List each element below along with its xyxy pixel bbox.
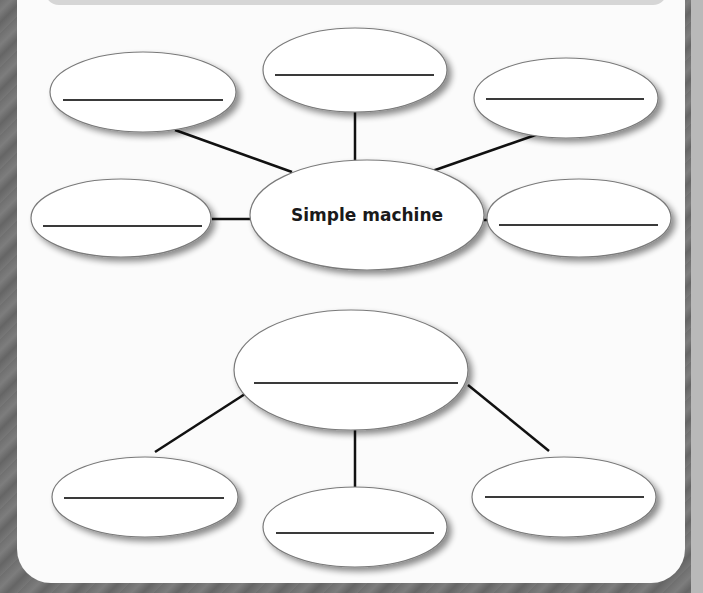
- connector-bottom-left: [155, 394, 245, 452]
- bubble-center-simple-machine: Simple machine: [250, 160, 484, 270]
- center-label: Simple machine: [291, 205, 443, 225]
- bubble-middle-left[interactable]: [31, 179, 211, 257]
- bubble-bottom-right[interactable]: [472, 457, 656, 537]
- concept-web-diagram: Simple machine: [0, 0, 703, 593]
- bubble-top-right[interactable]: [474, 58, 658, 138]
- bubble-top-left[interactable]: [50, 52, 236, 132]
- bubble-middle-right[interactable]: [487, 179, 671, 257]
- bubble-bottom-center[interactable]: [263, 487, 447, 567]
- connector-top-left: [175, 130, 292, 172]
- bubble-bottom-main[interactable]: [234, 310, 468, 430]
- connector-bottom-right: [468, 385, 549, 451]
- connector-top-right: [418, 131, 547, 176]
- bubble-top-center[interactable]: [263, 28, 447, 112]
- bubble-bottom-left[interactable]: [52, 457, 238, 537]
